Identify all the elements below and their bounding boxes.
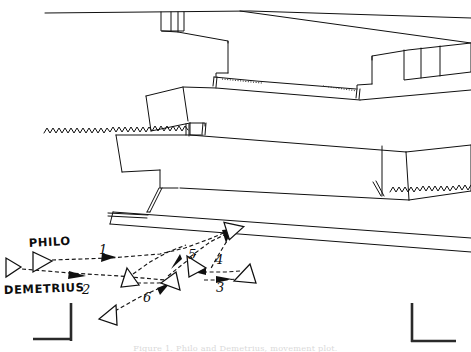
cue-number-4: 4 xyxy=(214,252,223,267)
set-wing-right xyxy=(411,303,456,342)
set-curtain-left xyxy=(44,124,189,136)
actor-philo-start xyxy=(33,252,52,272)
set-riser-middle xyxy=(190,123,206,135)
set-riser-lower-left xyxy=(147,188,162,212)
set-platform-lower xyxy=(116,135,471,200)
set-platform-middle xyxy=(146,77,471,131)
set-door-unit-upstage xyxy=(161,12,184,32)
arrowhead-cue-2 xyxy=(68,271,86,279)
label-demetrius: DEMETRIUS xyxy=(4,280,85,297)
actor-demetrius-right xyxy=(234,264,256,283)
cue-number-6: 6 xyxy=(143,290,151,305)
path-cue-3b xyxy=(203,271,240,272)
path-cue-1 xyxy=(52,231,228,260)
cue-number-1: 1 xyxy=(99,242,107,257)
path-cue-2 xyxy=(22,269,165,280)
actor-demetrius-downleft xyxy=(99,305,117,325)
set-curtain-right xyxy=(390,185,471,192)
label-philo: PHILO xyxy=(28,234,71,250)
cue-number-5: 5 xyxy=(188,247,196,262)
set-wing-left xyxy=(33,303,72,341)
set-upstage-wall xyxy=(45,11,471,43)
set-stage-apron xyxy=(108,212,471,252)
set-platform-upper xyxy=(162,31,471,89)
actor-demetrius-start xyxy=(6,258,21,277)
figure-caption: Figure 1. Philo and Demetrius, movement … xyxy=(0,343,471,352)
cue-number-3: 3 xyxy=(216,280,224,295)
path-cue-6 xyxy=(115,286,164,311)
cue-number-2: 2 xyxy=(81,282,90,297)
